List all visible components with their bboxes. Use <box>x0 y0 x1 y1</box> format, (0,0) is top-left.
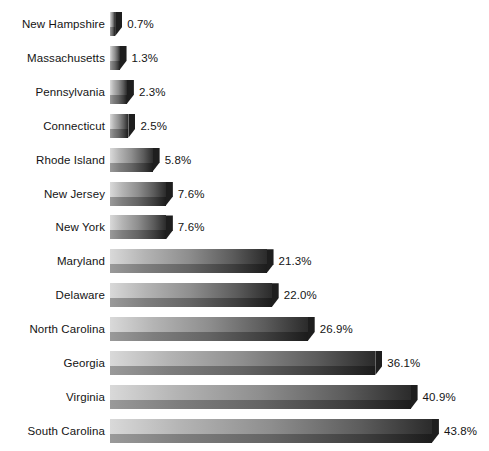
bar <box>110 351 375 375</box>
category-label: Pennsylvania <box>0 80 105 104</box>
bar-front-face <box>110 419 432 434</box>
value-label: 0.7% <box>127 12 154 36</box>
bar-front-face <box>110 80 127 95</box>
bar-body <box>110 114 128 138</box>
bar <box>110 385 411 409</box>
bar-body <box>110 317 308 341</box>
bar-row: Georgia36.1% <box>0 351 489 375</box>
bar <box>110 12 115 36</box>
bar <box>110 114 128 138</box>
bar-body <box>110 215 166 239</box>
bar-front-face <box>110 385 411 400</box>
bar-row: Virginia40.9% <box>0 385 489 409</box>
bar-body <box>110 148 153 172</box>
bar-body <box>110 46 120 70</box>
bar-front-face <box>110 12 115 27</box>
bar-front-face <box>110 114 128 129</box>
bar-body <box>110 249 267 273</box>
bar-bottom-face <box>110 163 153 172</box>
category-label: Delaware <box>0 283 105 307</box>
horizontal-bar-chart: New Hampshire0.7%Massachusetts1.3%Pennsy… <box>0 0 489 451</box>
value-label: 1.3% <box>132 46 159 70</box>
category-label: New York <box>0 215 105 239</box>
bar-bottom-face <box>110 27 115 36</box>
bar-end-bevel <box>375 351 382 375</box>
bar-front-face <box>110 215 166 230</box>
value-label: 36.1% <box>387 351 420 375</box>
bar-row: New Hampshire0.7% <box>0 12 489 36</box>
value-label: 2.5% <box>140 114 167 138</box>
category-label: New Jersey <box>0 182 105 206</box>
bar-row: Delaware22.0% <box>0 283 489 307</box>
bar <box>110 80 127 104</box>
bar <box>110 249 267 273</box>
bar-bottom-face <box>110 197 166 206</box>
bar-row: Massachusetts1.3% <box>0 46 489 70</box>
bar <box>110 148 153 172</box>
bar-end-bevel <box>115 12 122 36</box>
bar-end-bevel <box>127 80 134 104</box>
value-label: 22.0% <box>284 283 317 307</box>
bar-end-bevel <box>166 182 173 206</box>
bar-end-bevel <box>120 46 127 70</box>
bar-bottom-face <box>110 434 432 443</box>
bar-row: Connecticut2.5% <box>0 114 489 138</box>
value-label: 7.6% <box>178 182 205 206</box>
bar-front-face <box>110 46 120 61</box>
bar-end-bevel <box>128 114 135 138</box>
bar-end-bevel <box>153 148 160 172</box>
category-label: Rhode Island <box>0 148 105 172</box>
bar-row: South Carolina43.8% <box>0 419 489 443</box>
bar-end-bevel <box>308 317 315 341</box>
category-label: Massachusetts <box>0 46 105 70</box>
bar-front-face <box>110 148 153 163</box>
bar-front-face <box>110 249 267 264</box>
bar-bottom-face <box>110 400 411 409</box>
bar-body <box>110 182 166 206</box>
bar-bottom-face <box>110 264 267 273</box>
bar-end-bevel <box>267 249 274 273</box>
bar-body <box>110 385 411 409</box>
bar-end-bevel <box>432 419 439 443</box>
bar-bottom-face <box>110 366 375 375</box>
bar-body <box>110 80 127 104</box>
bar-body <box>110 351 375 375</box>
category-label: Connecticut <box>0 114 105 138</box>
bar-front-face <box>110 182 166 197</box>
category-label: Georgia <box>0 351 105 375</box>
bar-row: New York7.6% <box>0 215 489 239</box>
bar <box>110 46 120 70</box>
bar-bottom-face <box>110 332 308 341</box>
category-label: New Hampshire <box>0 12 105 36</box>
bar <box>110 419 432 443</box>
bar-front-face <box>110 351 375 366</box>
category-label: Maryland <box>0 249 105 273</box>
value-label: 43.8% <box>444 419 477 443</box>
bar-bottom-face <box>110 129 128 138</box>
bar <box>110 283 272 307</box>
bar-end-bevel <box>411 385 418 409</box>
bar-bottom-face <box>110 230 166 239</box>
bar-row: Rhode Island5.8% <box>0 148 489 172</box>
value-label: 5.8% <box>165 148 192 172</box>
bar-row: Pennsylvania2.3% <box>0 80 489 104</box>
bar-body <box>110 419 432 443</box>
bar <box>110 317 308 341</box>
value-label: 26.9% <box>320 317 353 341</box>
bar-front-face <box>110 283 272 298</box>
category-label: North Carolina <box>0 317 105 341</box>
bar-bottom-face <box>110 298 272 307</box>
bar-bottom-face <box>110 95 127 104</box>
bar-row: New Jersey7.6% <box>0 182 489 206</box>
value-label: 21.3% <box>279 249 312 273</box>
value-label: 7.6% <box>178 215 205 239</box>
value-label: 2.3% <box>139 80 166 104</box>
bar-row: Maryland21.3% <box>0 249 489 273</box>
value-label: 40.9% <box>423 385 456 409</box>
bar <box>110 182 166 206</box>
category-label: South Carolina <box>0 419 105 443</box>
bar-bottom-face <box>110 61 120 70</box>
bar-row: North Carolina26.9% <box>0 317 489 341</box>
category-label: Virginia <box>0 385 105 409</box>
bar-body <box>110 283 272 307</box>
